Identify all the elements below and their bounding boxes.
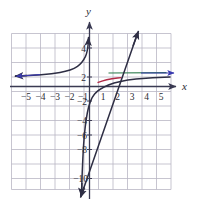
- svg-text:5: 5: [159, 92, 164, 102]
- svg-text:3: 3: [130, 92, 135, 102]
- svg-text:−8: −8: [77, 145, 87, 155]
- x-axis-label: x: [182, 81, 187, 92]
- y-axis-label: y: [86, 6, 91, 17]
- series-rational-branch-left: [16, 38, 89, 77]
- svg-text:−2: −2: [77, 97, 87, 107]
- svg-text:4: 4: [144, 92, 149, 102]
- svg-text:−3: −3: [50, 92, 60, 102]
- svg-text:−4: −4: [35, 92, 45, 102]
- svg-text:−2: −2: [64, 92, 74, 102]
- svg-text:−6: −6: [77, 131, 87, 141]
- graph-figure: −5 −4 −3 −2 −1 1 2 3 4 5 4 2 −2 −4 −6 −8…: [0, 0, 198, 203]
- axis-lines: [10, 22, 176, 199]
- svg-text:4: 4: [81, 44, 86, 54]
- svg-text:−5: −5: [21, 92, 31, 102]
- svg-text:1: 1: [101, 92, 106, 102]
- coordinate-plane: −5 −4 −3 −2 −1 1 2 3 4 5 4 2 −2 −4 −6 −8…: [0, 0, 198, 203]
- svg-text:2: 2: [81, 73, 86, 83]
